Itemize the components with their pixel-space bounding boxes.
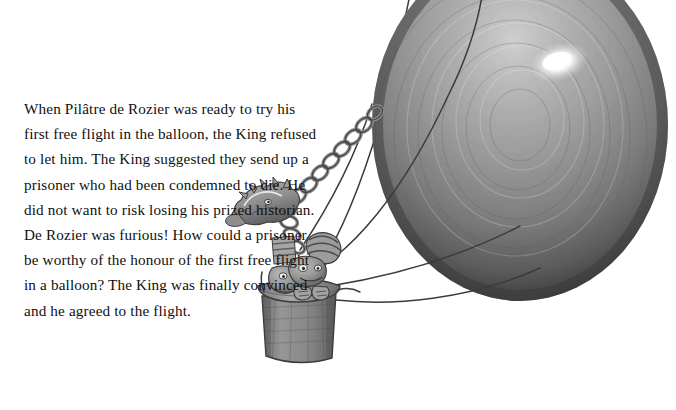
rigging-ropes-front xyxy=(300,0,540,302)
story-text: When Pilâtre de Rozier was ready to try … xyxy=(24,96,324,323)
balloon-envelope xyxy=(372,0,668,301)
balloon-highlight xyxy=(525,35,593,88)
book-page: When Pilâtre de Rozier was ready to try … xyxy=(0,0,676,410)
